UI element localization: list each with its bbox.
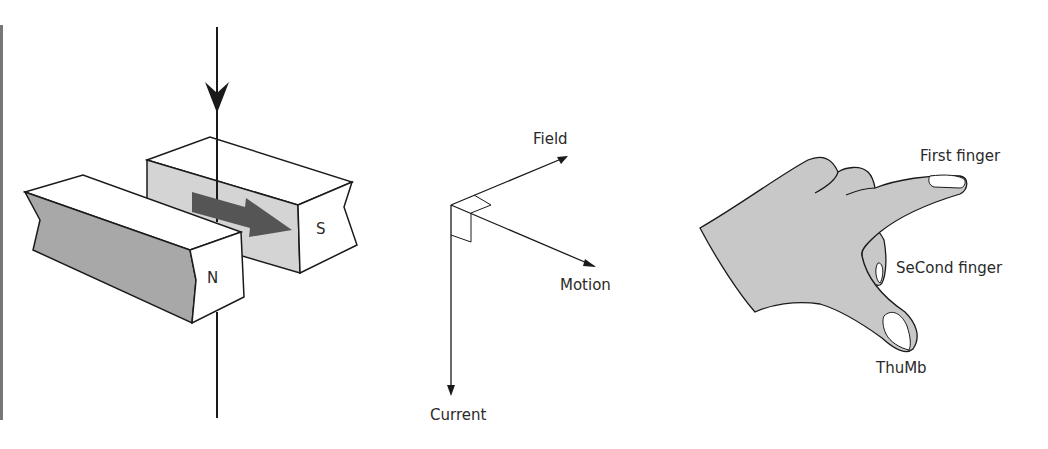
- hand-shape: [700, 157, 967, 351]
- first-finger-nail: [929, 175, 965, 188]
- motion-label: Motion: [560, 276, 611, 294]
- north-pole-label: N: [207, 269, 218, 287]
- current-arrowhead-icon-vec: [447, 385, 455, 396]
- magnets-panel: S N: [25, 27, 357, 418]
- motion-arrowhead-icon: [583, 259, 596, 267]
- figure-canvas: S N Field Motion Current: [0, 0, 1048, 449]
- current-label: Current: [430, 406, 486, 424]
- second-finger-label: SeCond finger: [896, 259, 1003, 277]
- right-angle-marker-side: [451, 213, 471, 242]
- hand-panel: First finger SeCond finger ThuMb: [700, 147, 1003, 377]
- field-label: Field: [533, 130, 568, 148]
- vectors-panel: Field Motion Current: [430, 130, 611, 424]
- field-vector: [451, 157, 566, 205]
- motion-vector: [451, 205, 594, 266]
- first-finger-label: First finger: [920, 147, 1001, 165]
- left-edge-bar: [0, 25, 3, 420]
- right-angle-marker-top: [471, 195, 491, 213]
- south-pole-label: S: [316, 220, 326, 238]
- thumb-label: ThuMb: [875, 359, 927, 377]
